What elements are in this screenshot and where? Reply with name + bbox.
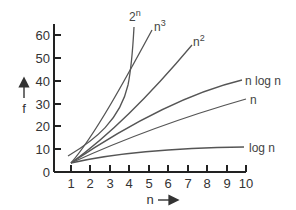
label-2-to-n: 2n	[129, 8, 141, 24]
x-axis-title-group: n	[146, 192, 174, 207]
x-tick-1: 1	[67, 176, 74, 191]
x-tick-10: 10	[239, 176, 253, 191]
x-tick-3: 3	[106, 176, 113, 191]
y-axis-title: f	[22, 101, 26, 116]
x-tick-5: 5	[145, 176, 152, 191]
x-tick-8: 8	[203, 176, 210, 191]
x-ticks	[71, 165, 246, 172]
y-ticks	[54, 35, 61, 149]
x-tick-labels: 1 2 3 4 5 6 7 8 9 10	[67, 176, 253, 191]
y-tick-50: 50	[36, 51, 50, 66]
y-tick-0: 0	[43, 165, 50, 180]
y-tick-30: 30	[36, 97, 50, 112]
x-tick-7: 7	[184, 176, 191, 191]
x-tick-6: 6	[164, 176, 171, 191]
y-tick-40: 40	[36, 74, 50, 89]
x-tick-4: 4	[125, 176, 132, 191]
x-tick-2: 2	[86, 176, 93, 191]
curve-n-cubed	[71, 30, 152, 163]
y-tick-20: 20	[36, 119, 50, 134]
curve-n	[71, 99, 246, 163]
complexity-growth-chart: 0 10 20 30 40 50 60 1 2 3 4 5 6 7 8 9 10…	[0, 0, 296, 210]
label-n-cubed: n3	[154, 18, 166, 34]
label-n: n	[250, 93, 257, 107]
y-tick-10: 10	[36, 142, 50, 157]
curve-log-n	[71, 147, 244, 163]
label-n-squared: n2	[193, 33, 205, 49]
label-log-n: log n	[249, 141, 275, 155]
x-axis-title: n	[146, 192, 153, 207]
x-tick-9: 9	[223, 176, 230, 191]
y-tick-labels: 0 10 20 30 40 50 60	[36, 28, 50, 180]
y-axis-title-group: f	[22, 82, 26, 116]
curve-2-to-n	[68, 27, 134, 156]
y-tick-60: 60	[36, 28, 50, 43]
label-n-log-n: n log n	[245, 74, 281, 88]
